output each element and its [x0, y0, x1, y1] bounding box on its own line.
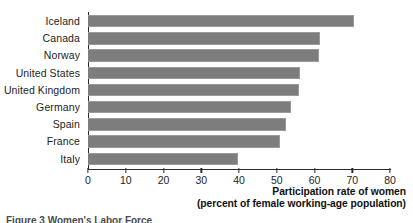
x-axis-tick-label: 30	[195, 174, 207, 186]
bar-row	[88, 67, 390, 79]
bar-row	[88, 49, 390, 61]
x-axis-title: Participation rate of women (percent of …	[76, 186, 406, 210]
bar-row	[88, 15, 390, 27]
y-axis-label: Norway	[0, 49, 84, 61]
y-axis-label: Canada	[0, 32, 84, 44]
bar	[88, 67, 300, 79]
x-axis-tick	[163, 168, 164, 173]
bar-row	[88, 135, 390, 147]
x-axis-title-line2: (percent of female working-age populatio…	[76, 198, 406, 210]
bar	[88, 101, 291, 113]
x-axis-tick	[352, 168, 353, 173]
x-axis-tick-label: 10	[120, 174, 132, 186]
bar-series	[88, 13, 390, 168]
bar	[88, 49, 319, 61]
y-axis-label: France	[0, 135, 84, 147]
y-axis-label: Germany	[0, 101, 84, 113]
plot-area	[88, 13, 390, 168]
x-axis-tick	[87, 168, 88, 173]
bar-chart-figure: Iceland Canada Norway United States Unit…	[0, 0, 413, 223]
x-axis-tick	[389, 168, 390, 173]
x-axis-tick-label: 40	[233, 174, 245, 186]
bar-row	[88, 118, 390, 130]
bar-row	[88, 32, 390, 44]
x-axis-tick-label: 80	[384, 174, 396, 186]
x-axis-tick	[125, 168, 126, 173]
bar	[88, 32, 320, 44]
x-axis-tick-label: 70	[346, 174, 358, 186]
x-axis-tick-label: 60	[309, 174, 321, 186]
y-axis-labels: Iceland Canada Norway United States Unit…	[0, 13, 84, 168]
x-axis-tick-label: 50	[271, 174, 283, 186]
bar-row	[88, 153, 390, 165]
bar	[88, 135, 280, 147]
y-axis-label: United Kingdom	[0, 84, 84, 96]
bar	[88, 84, 299, 96]
y-axis-label: United States	[0, 67, 84, 79]
x-axis-tick-label: 0	[85, 174, 91, 186]
bar	[88, 153, 238, 165]
bar	[88, 118, 286, 130]
x-axis-tick	[276, 168, 277, 173]
x-axis-tick-label: 20	[158, 174, 170, 186]
x-axis-title-line1: Participation rate of women	[76, 186, 406, 198]
bar-row	[88, 84, 390, 96]
x-axis-tick	[238, 168, 239, 173]
x-axis-tick	[314, 168, 315, 173]
x-axis-tick	[201, 168, 202, 173]
bar	[88, 15, 354, 27]
y-axis-label: Italy	[0, 153, 84, 165]
y-axis-label: Spain	[0, 118, 84, 130]
y-axis-label: Iceland	[0, 15, 84, 27]
bar-row	[88, 101, 390, 113]
figure-caption: Figure 3 Women's Labor Force	[6, 215, 256, 223]
